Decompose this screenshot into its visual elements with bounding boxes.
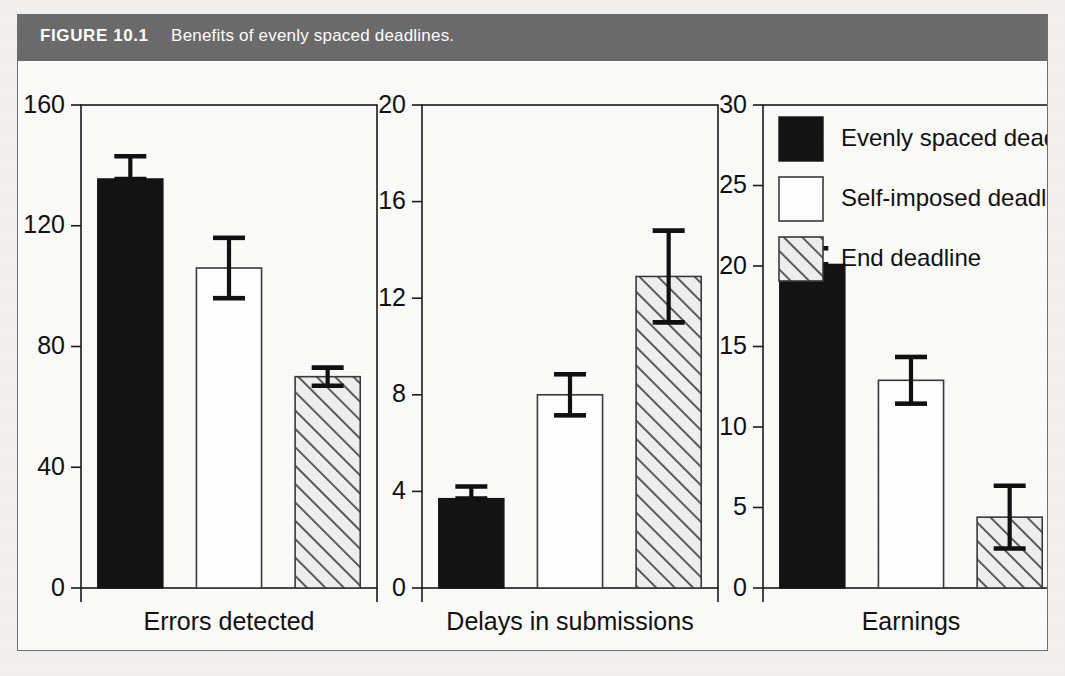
chart-panels-group: 04080120160Errors detected048121620Delay… xyxy=(23,90,1047,635)
bar-self-imposed-deadlines xyxy=(196,268,261,588)
bar-evenly-spaced-deadlines xyxy=(98,179,163,588)
chart-panel-errors-detected: 04080120160Errors detected xyxy=(23,90,377,635)
bar-evenly-spaced-deadlines xyxy=(439,499,504,588)
panel-category-label: Earnings xyxy=(862,607,961,635)
bar-end-deadline xyxy=(295,377,360,588)
bar-self-imposed-deadlines xyxy=(537,395,602,588)
chart-panel-delays-in-submissions: 048121620Delays in submissions xyxy=(378,90,718,635)
y-axis-tick-label: 120 xyxy=(23,210,65,238)
legend-label: End deadline xyxy=(841,244,981,271)
y-axis-tick-label: 0 xyxy=(733,573,747,601)
y-axis-tick-label: 12 xyxy=(378,283,406,311)
figure-caption-bar: FIGURE 10.1 Benefits of evenly spaced de… xyxy=(18,15,1047,61)
panel-category-label: Delays in submissions xyxy=(446,607,693,635)
y-axis-tick-label: 20 xyxy=(378,90,406,118)
y-axis-tick-label: 0 xyxy=(392,573,406,601)
figure-caption-text: Benefits of evenly spaced deadlines. xyxy=(171,26,454,45)
y-axis-tick-label: 80 xyxy=(37,331,65,359)
y-axis-tick-label: 20 xyxy=(719,251,747,279)
y-axis-tick-label: 8 xyxy=(392,379,406,407)
y-axis-tick-label: 16 xyxy=(378,186,406,214)
y-axis-tick-label: 25 xyxy=(719,170,747,198)
y-axis-tick-label: 40 xyxy=(37,452,65,480)
y-axis-tick-label: 5 xyxy=(733,492,747,520)
y-axis-tick-label: 30 xyxy=(719,90,747,118)
y-axis-tick-label: 4 xyxy=(392,476,406,504)
figure-number-label: FIGURE 10.1 xyxy=(40,26,149,45)
panel-category-label: Errors detected xyxy=(144,607,315,635)
chart-plot-area: 04080120160Errors detected048121620Delay… xyxy=(18,61,1047,650)
bar-chart-svg: 04080120160Errors detected048121620Delay… xyxy=(18,61,1047,650)
bar-self-imposed-deadlines xyxy=(878,380,943,588)
error-bar xyxy=(114,156,146,179)
legend-swatch-evenly-spaced-deadlines xyxy=(779,117,823,161)
figure-caption-inner: FIGURE 10.1 Benefits of evenly spaced de… xyxy=(40,26,454,46)
y-axis-tick-label: 160 xyxy=(23,90,65,118)
chart-panel-earnings: 051015202530Earnings xyxy=(719,90,1047,635)
legend-label: Evenly spaced deadlines xyxy=(841,124,1047,151)
y-axis-tick-label: 15 xyxy=(719,331,747,359)
bar-evenly-spaced-deadlines xyxy=(780,264,845,588)
error-bar xyxy=(455,487,487,499)
y-axis-tick-label: 0 xyxy=(51,573,65,601)
legend-swatch-self-imposed-deadlines xyxy=(779,177,823,221)
legend-swatch-end-deadline xyxy=(779,237,823,281)
y-axis-tick-label: 10 xyxy=(719,412,747,440)
legend-label: Self-imposed deadlines xyxy=(841,184,1047,211)
figure-root: FIGURE 10.1 Benefits of evenly spaced de… xyxy=(0,0,1065,676)
chart-legend: Evenly spaced deadlinesSelf-imposed dead… xyxy=(779,117,1047,281)
